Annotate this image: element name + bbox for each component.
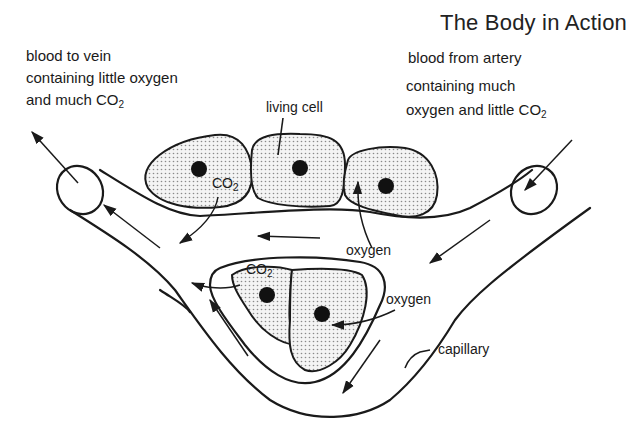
co2-lower-label: CO2: [246, 262, 273, 276]
arrow-out-vein: [32, 132, 78, 183]
artery-label-line1: blood from artery: [408, 50, 521, 65]
vein-label-line1: blood to vein: [26, 48, 111, 63]
artery-co2-text: oxygen and little CO: [406, 101, 541, 118]
arrow-in-artery: [525, 140, 572, 190]
nucleus: [378, 178, 394, 194]
subscript: 2: [233, 182, 239, 193]
oxygen-lower-label: oxygen: [386, 292, 431, 306]
subscript: 2: [267, 268, 273, 279]
capillary-inner-wall: [160, 290, 190, 312]
co2-text: CO: [212, 175, 233, 191]
nucleus: [292, 160, 308, 176]
lower-cell-right: [289, 269, 366, 371]
arrow-flow-artery: [430, 220, 490, 263]
vein-label-line3: and much CO2: [26, 92, 124, 107]
nucleus: [191, 161, 207, 177]
nucleus: [314, 306, 330, 322]
subscript: 2: [541, 109, 547, 120]
oxygen-upper-label: oxygen: [346, 243, 391, 257]
arrow-flow-left-up: [210, 300, 248, 356]
vein-tube-end: [48, 157, 113, 223]
lower-cell-left: [232, 267, 298, 345]
co2-upper-label: CO2: [212, 176, 239, 190]
capillary-label: capillary: [438, 342, 489, 356]
living-cell-label: living cell: [266, 100, 323, 114]
page-title: The Body in Action: [440, 12, 627, 34]
vein-label-line2: containing little oxygen: [26, 70, 178, 85]
arrow-flow-vein: [104, 205, 160, 248]
nucleus: [259, 287, 275, 303]
co2-text: CO: [246, 261, 267, 277]
arrow-flow-top: [258, 236, 320, 238]
leader-capillary: [405, 350, 430, 368]
subscript: 2: [119, 99, 125, 110]
vein-co2-text: and much CO: [26, 91, 119, 108]
artery-label-line3: oxygen and little CO2: [406, 102, 547, 117]
artery-tube-end: [502, 157, 567, 223]
artery-label-line2: containing much: [406, 78, 515, 93]
